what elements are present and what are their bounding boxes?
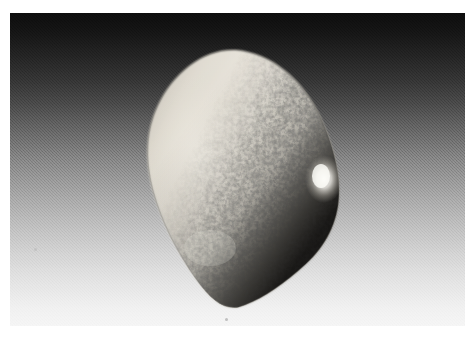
speckled-ovoid-object <box>138 48 348 310</box>
dust-speck-lower <box>225 318 228 321</box>
photograph <box>10 13 465 326</box>
dust-speck-left <box>34 248 37 251</box>
object-lower-sheen <box>184 230 236 266</box>
photo-page <box>0 0 474 339</box>
object-specular-core <box>312 164 330 188</box>
